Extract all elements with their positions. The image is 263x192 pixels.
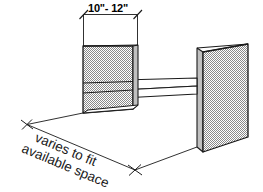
- technical-drawing-canvas: 10"- 12": [0, 0, 263, 192]
- shelf-assembly-diagram: 10"- 12": [0, 0, 263, 192]
- width-dimension-label: 10"- 12": [88, 2, 128, 14]
- depth-note-text-group: varies to fit available space: [20, 127, 117, 191]
- depth-tick-right-icon: [128, 165, 142, 176]
- right-panel: [197, 44, 248, 152]
- right-panel-thickness-face: [197, 48, 203, 152]
- depth-tick-left-icon: [21, 120, 33, 130]
- left-panel-thickness-face: [133, 45, 138, 109]
- top-width-dimension-group: 10"- 12": [80, 2, 143, 47]
- depth-leader-line-left: [27, 113, 83, 125]
- left-panel-front-face: [83, 46, 133, 113]
- depth-leader-line-right: [135, 147, 197, 170]
- left-panel: [83, 45, 138, 113]
- right-panel-front-face: [203, 44, 248, 152]
- bottom-depth-dimension-group: varies to fit available space: [20, 113, 197, 191]
